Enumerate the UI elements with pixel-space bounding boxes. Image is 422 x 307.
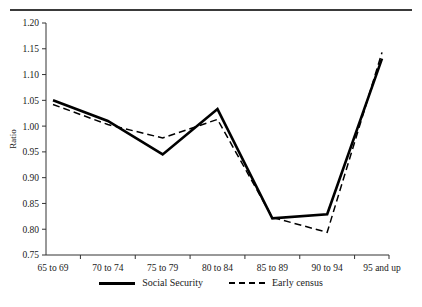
chart-legend: Social Security Early census [0, 277, 422, 288]
x-tick-label: 80 to 84 [202, 263, 233, 273]
y-tick-label: 0.95 [22, 147, 39, 157]
solid-line-key-icon [99, 278, 135, 288]
x-tick-label: 75 to 79 [147, 263, 178, 273]
y-tick-label: 1.00 [22, 122, 39, 132]
x-tick-label: 65 to 69 [37, 263, 68, 273]
y-tick-label: 0.80 [22, 225, 39, 235]
y-axis: 0.750.800.850.900.951.001.051.101.151.20 [22, 18, 46, 260]
legend-entry-social-security[interactable]: Social Security [99, 277, 203, 288]
x-tick-label: 90 to 94 [312, 263, 343, 273]
x-tick-label: 70 to 74 [92, 263, 123, 273]
x-tick-label: 95 and up [363, 263, 401, 273]
y-tick-label: 0.90 [22, 173, 39, 183]
y-tick-label: 0.85 [22, 199, 39, 209]
figure-container: 0.750.800.850.900.951.001.051.101.151.20… [0, 0, 422, 307]
legend-entry-early-census[interactable]: Early census [229, 277, 323, 288]
y-tick-label: 1.05 [22, 96, 39, 106]
y-tick-label: 0.75 [22, 250, 39, 260]
y-tick-label: 1.15 [22, 44, 39, 54]
legend-label-social-security: Social Security [142, 277, 203, 288]
x-tick-label: 85 to 89 [257, 263, 288, 273]
legend-label-early-census: Early census [272, 277, 323, 288]
series-lines [53, 52, 382, 232]
x-axis: 65 to 6970 to 7475 to 7980 to 8485 to 89… [37, 255, 401, 273]
dashed-line-key-icon [229, 278, 265, 288]
series-line-social-security [53, 59, 382, 219]
line-chart-svg: 0.750.800.850.900.951.001.051.101.151.20… [0, 0, 422, 307]
series-line-early-census [53, 52, 382, 232]
y-tick-label: 1.10 [22, 70, 39, 80]
plot-area: 0.750.800.850.900.951.001.051.101.151.20… [0, 0, 422, 307]
y-tick-label: 1.20 [22, 18, 39, 28]
y-axis-title: Ratio [8, 129, 18, 149]
